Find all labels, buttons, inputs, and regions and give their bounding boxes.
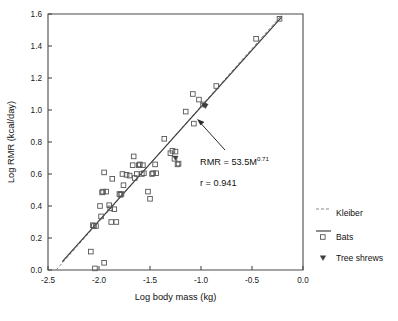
bats-data-point: [254, 37, 259, 42]
bats-data-point: [162, 137, 167, 142]
annotation-arrow-head: [197, 119, 204, 125]
y-tick-label: 0.8: [31, 138, 43, 147]
bats-data-point: [98, 204, 103, 209]
bats-data-point: [109, 220, 114, 225]
bats-data-point: [153, 162, 158, 167]
x-tick-label: -2.5: [41, 276, 56, 285]
bats-data-point: [121, 183, 126, 188]
legend-label-bats: Bats: [336, 232, 353, 242]
bats-data-point: [148, 197, 153, 202]
x-tick-label: -1.5: [143, 276, 158, 285]
x-tick-label: 0.0: [297, 276, 309, 285]
legend-marker-bats: [321, 235, 326, 240]
bats-data-point: [192, 121, 197, 126]
y-tick-label: 0.0: [31, 266, 43, 275]
bats-data-point: [114, 220, 119, 225]
y-tick-label: 1.0: [31, 106, 43, 115]
bats-data-point: [197, 97, 202, 102]
y-tick-label: 0.6: [31, 170, 43, 179]
bats-data-point: [131, 154, 136, 159]
plot-frame: [48, 14, 303, 270]
tree-shrews-data-point: [173, 156, 178, 161]
legend-label-tree-shrews: Tree shrews: [336, 253, 383, 263]
y-tick-label: 1.6: [31, 10, 43, 19]
bats-data-point: [130, 163, 135, 168]
figure-container: 0.00.20.40.60.81.01.21.41.6-2.5-2.0-1.5-…: [0, 0, 398, 321]
bats-data-point: [102, 261, 107, 266]
legend-marker-tree-shrews: [320, 256, 326, 261]
y-tick-label: 1.2: [31, 74, 43, 83]
y-tick-label: 0.2: [31, 234, 43, 243]
x-tick-label: -0.5: [245, 276, 260, 285]
y-tick-label: 0.4: [31, 202, 43, 211]
x-tick-label: -2.0: [92, 276, 107, 285]
scatter-plot: 0.00.20.40.60.81.01.21.41.6-2.5-2.0-1.5-…: [0, 0, 398, 321]
legend-label-kleiber: Kleiber: [336, 208, 363, 218]
x-tick-label: -1.0: [194, 276, 209, 285]
bats-data-point: [102, 170, 107, 175]
bats-data-point: [110, 177, 115, 182]
bats-data-point: [183, 109, 188, 114]
bats-data-point: [89, 249, 94, 254]
equation-annotation: RMR = 53.5M0.71: [200, 155, 270, 167]
y-axis-title: Log RMR (kcal/day): [6, 101, 16, 183]
correlation-annotation: r = 0.941: [200, 178, 237, 188]
bats-data-point: [146, 189, 151, 194]
annotation-arrow-line: [200, 122, 225, 150]
y-tick-label: 1.4: [31, 42, 43, 51]
bats-data-point: [191, 92, 196, 97]
x-axis-title: Log body mass (kg): [135, 292, 217, 302]
